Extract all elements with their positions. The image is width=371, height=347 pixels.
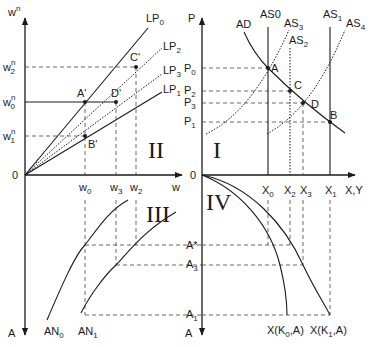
as4-label: AS4 xyxy=(346,17,366,32)
point-a xyxy=(266,66,270,70)
w2-tick: w2 xyxy=(129,181,143,196)
x3-tick: X3 xyxy=(300,184,312,199)
point-c-prime xyxy=(134,65,138,69)
panel-IV-roman: IV xyxy=(206,189,232,215)
label-a-prime: A' xyxy=(77,87,86,99)
p1-tick: P1 xyxy=(184,115,196,130)
a1-tick-right: A1 xyxy=(186,308,198,323)
as3-label: AS3 xyxy=(284,17,304,32)
label-a: A xyxy=(271,62,279,74)
point-d xyxy=(301,101,305,105)
w2n-tick: wn2 xyxy=(2,58,15,76)
w0-tick: w0 xyxy=(78,181,92,196)
ad-label: AD xyxy=(236,18,251,30)
panel-I-x-axis-label: X,Y xyxy=(345,184,363,196)
point-d-prime xyxy=(114,100,118,104)
panel-II-roman: II xyxy=(148,137,164,163)
label-d-prime: D' xyxy=(111,87,121,99)
point-c xyxy=(288,89,292,93)
w1n-tick: wn1 xyxy=(2,127,15,145)
x2-tick: X2 xyxy=(284,184,296,199)
x1-tick: X1 xyxy=(325,184,337,199)
label-c: C xyxy=(294,79,302,91)
as3-curve xyxy=(206,30,289,134)
x0-tick: X0 xyxy=(262,184,274,199)
panel-III-roman: III xyxy=(146,201,170,227)
w3-tick: w3 xyxy=(109,181,123,196)
panel-I-y-axis-label: P xyxy=(188,12,195,24)
a3-tick-right: A3 xyxy=(186,258,198,273)
panel-III: A AN0 AN1 III xyxy=(8,175,202,340)
lp1-line xyxy=(25,92,162,175)
x-k0-label: X(K0,A) xyxy=(267,324,304,339)
p0-tick: P0 xyxy=(184,62,196,77)
as2-label: AS2 xyxy=(289,34,309,49)
panel-I: P X,Y 0 AD AS0 AS3 AS2 AS1 AS4 P0 P2 P3 … xyxy=(184,8,366,199)
x-k1-label: X(K1,A) xyxy=(310,324,347,339)
label-b: B xyxy=(330,109,337,121)
panel-IV: A A* A3 A1 X(K0,A) X(K1,A) IV xyxy=(185,175,347,339)
lp3-line xyxy=(25,74,162,175)
lp0-label: LP0 xyxy=(146,12,164,27)
panel-II-x-axis-label: w xyxy=(171,181,180,193)
panel-IV-y-axis-label: A xyxy=(185,327,193,339)
lp2-label: LP2 xyxy=(163,40,181,55)
as1-label: AS1 xyxy=(323,8,343,23)
an1-curve xyxy=(81,212,176,313)
origin-right-label: 0 xyxy=(190,169,196,181)
point-b-prime xyxy=(83,134,87,138)
point-a-prime xyxy=(83,100,87,104)
an1-label: AN1 xyxy=(78,325,98,340)
label-d: D xyxy=(311,98,319,110)
lp1-label: LP1 xyxy=(163,83,181,98)
as0-label: AS0 xyxy=(260,8,281,20)
origin-left-label: 0 xyxy=(12,169,18,181)
panel-II: wn w 0 LP0 LP2 LP3 LP1 wn2 wn0 wn1 w0 w3… xyxy=(2,4,182,196)
lp3-label: LP3 xyxy=(163,64,181,79)
panel-I-roman: I xyxy=(213,137,221,163)
an0-label: AN0 xyxy=(44,325,64,340)
label-b-prime: B' xyxy=(88,138,97,150)
label-c-prime: C' xyxy=(130,51,140,63)
panel-II-y-axis-label: wn xyxy=(7,4,20,18)
four-quadrant-diagram: wn w 0 LP0 LP2 LP3 LP1 wn2 wn0 wn1 w0 w3… xyxy=(0,0,371,347)
panel-III-y-axis-label: A xyxy=(8,327,16,339)
a-star-tick-right: A* xyxy=(186,239,198,251)
w0n-tick: wn0 xyxy=(2,93,15,111)
lp2-line xyxy=(25,48,162,175)
